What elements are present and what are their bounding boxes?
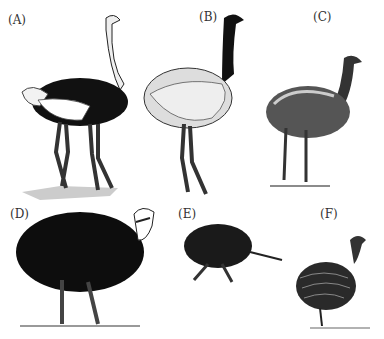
emu-drawing [266, 56, 362, 186]
tinamou-drawing [296, 236, 370, 328]
rhea-drawing [144, 14, 244, 194]
birds-illustration [0, 0, 384, 339]
cassowary-drawing [16, 208, 154, 326]
ratite-birds-figure: (A) (B) (C) (D) (E) (F) [0, 0, 384, 339]
kiwi-drawing [184, 224, 282, 282]
ostrich-drawing [22, 15, 128, 200]
